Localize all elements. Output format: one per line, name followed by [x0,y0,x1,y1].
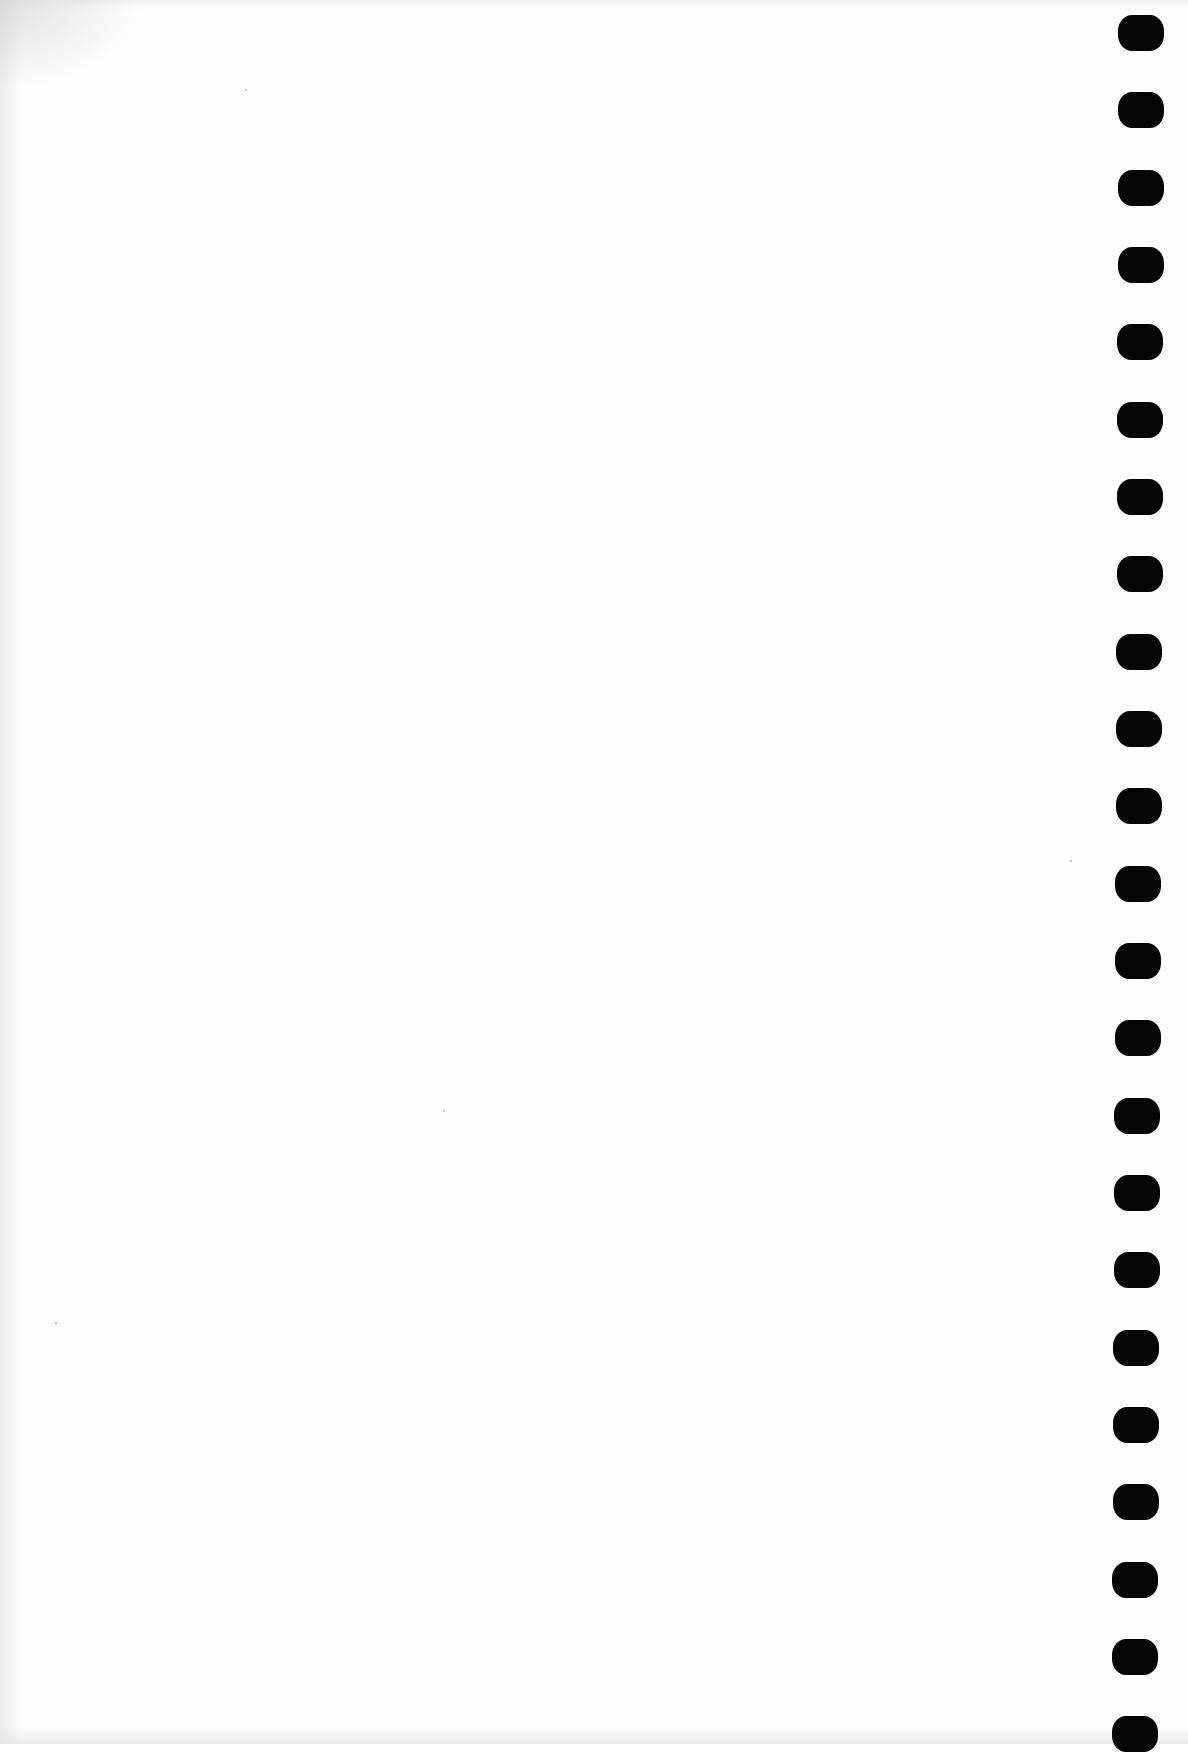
binding-hole [1112,1562,1158,1598]
binding-hole [1112,1639,1158,1675]
binding-hole [1118,170,1164,206]
binding-hole [1117,556,1163,592]
scan-speck [1070,860,1072,862]
binding-hole [1115,943,1161,979]
binding-hole [1116,788,1162,824]
binding-hole [1115,1020,1161,1056]
binding-hole [1117,402,1163,438]
scan-speck [55,1322,57,1324]
binding-hole [1115,866,1161,902]
binding-hole [1118,92,1164,128]
binding-hole [1116,634,1162,670]
binding-hole [1116,711,1162,747]
binding-hole [1114,1175,1160,1211]
scan-speck [245,89,247,91]
scan-speck [443,1110,445,1112]
binding-hole [1113,1484,1159,1520]
binding-hole [1114,1098,1160,1134]
binding-hole [1117,324,1163,360]
binding-hole [1114,1252,1160,1288]
binding-hole [1118,247,1164,283]
binding-hole [1112,1716,1158,1752]
binding-hole [1118,15,1164,51]
binding-hole [1113,1330,1159,1366]
binding-hole [1113,1407,1159,1443]
binding-hole [1117,479,1163,515]
